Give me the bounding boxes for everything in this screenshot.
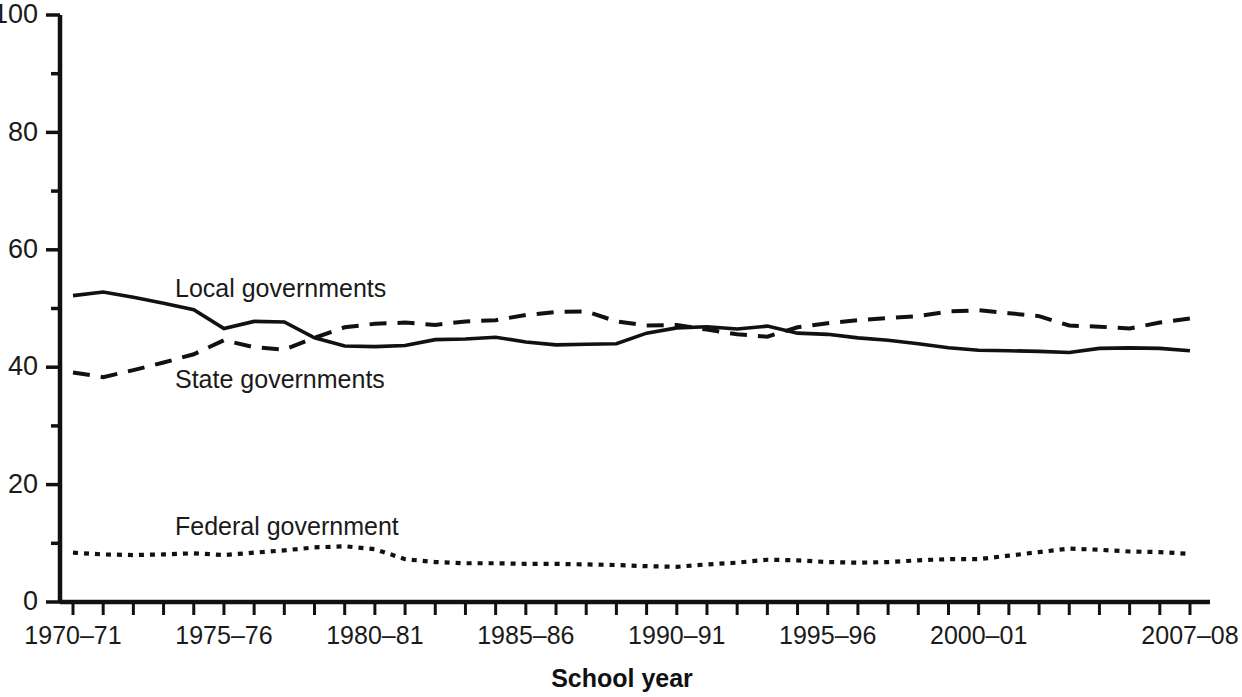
y-tick-label: 40	[8, 351, 38, 381]
x-tick-label: 1970–71	[24, 621, 121, 649]
y-tick-label: 20	[8, 469, 38, 499]
x-axis-title: School year	[551, 664, 693, 692]
x-tick-label: 1980–81	[326, 621, 423, 649]
series-annotation: State governments	[175, 365, 385, 393]
y-tick-label: 60	[8, 234, 38, 264]
y-axis: 020406080100	[0, 0, 60, 616]
chart-container: 0204060801001970–711975–761980–811985–86…	[0, 0, 1242, 697]
x-tick-label: 1995–96	[779, 621, 876, 649]
series-annotation: Local governments	[175, 274, 386, 302]
x-tick-label: 1990–91	[628, 621, 725, 649]
y-tick-label: 100	[0, 0, 38, 29]
x-tick-label: 1985–86	[477, 621, 574, 649]
x-tick-label: 2000–01	[930, 621, 1027, 649]
x-tick-label: 1975–76	[175, 621, 272, 649]
line-chart: 0204060801001970–711975–761980–811985–86…	[0, 0, 1242, 697]
x-axis: 1970–711975–761980–811985–861990–911995–…	[24, 602, 1238, 649]
y-tick-label: 80	[8, 117, 38, 147]
series-line-federal-government	[73, 546, 1190, 567]
y-tick-label: 0	[23, 586, 38, 616]
x-tick-label: 2007–08	[1141, 621, 1238, 649]
series-annotation: Federal government	[175, 512, 399, 540]
